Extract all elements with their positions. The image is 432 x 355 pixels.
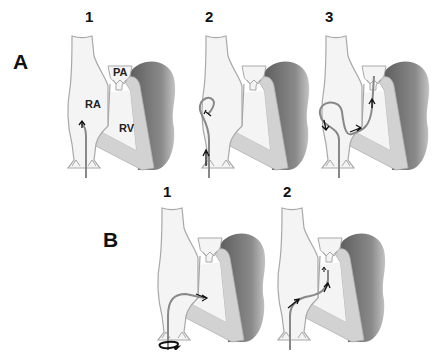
label-right-atrium: RA bbox=[85, 98, 101, 110]
label-pulmonary-artery: PA bbox=[113, 66, 127, 78]
heart-diagram-b1 bbox=[148, 200, 268, 350]
panel-number-b1: 1 bbox=[163, 183, 171, 200]
row-label-a: A bbox=[13, 50, 28, 74]
label-right-ventricle: RV bbox=[119, 122, 134, 134]
heart-diagram-a3 bbox=[312, 28, 432, 178]
heart-diagram-b2 bbox=[268, 200, 388, 350]
heart-diagram-a1 bbox=[58, 28, 178, 178]
panel-number-a1: 1 bbox=[85, 8, 93, 25]
heart-diagram-a2 bbox=[192, 28, 312, 178]
panel-number-a3: 3 bbox=[325, 8, 333, 25]
panel-number-a2: 2 bbox=[205, 8, 213, 25]
panel-number-b2: 2 bbox=[283, 183, 291, 200]
row-label-b: B bbox=[103, 228, 118, 252]
